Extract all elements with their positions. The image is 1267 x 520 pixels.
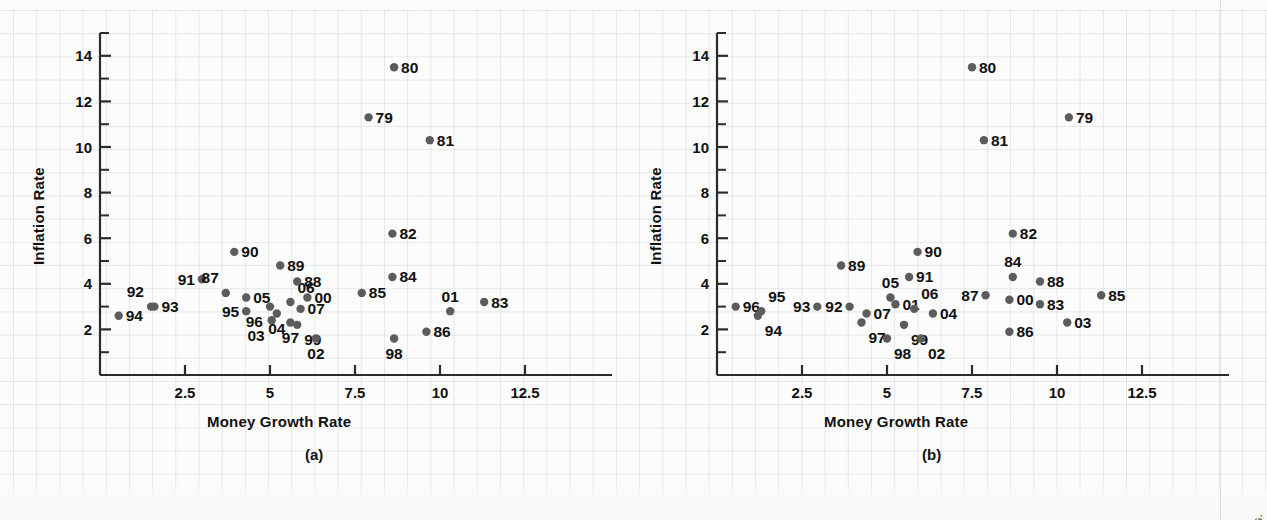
y-tick-label: 8 [701,184,709,201]
x-tick-label: 7.5 [962,384,983,400]
data-point-label: 03 [1074,314,1092,331]
data-point [1009,273,1017,281]
data-point [837,261,845,269]
panel-caption-b: (b) [922,446,941,463]
data-point-label: 03 [247,327,265,344]
data-point [426,136,434,144]
data-point [1005,296,1013,304]
x-tick-label: 12.5 [1127,384,1156,400]
data-point [364,113,372,121]
data-point-label: 87 [961,287,978,304]
data-point [913,248,921,256]
scatter-plot-b: 24681012142.557.51012.596949593928997070… [617,0,1247,400]
data-point [757,307,765,315]
data-point [981,291,989,299]
data-point [883,334,891,342]
data-point-label: 80 [979,59,996,76]
data-point [242,293,250,301]
data-point-label: 86 [1016,323,1034,340]
data-point [891,300,899,308]
data-point [929,309,937,317]
data-point-label: 91 [916,268,934,285]
data-point [968,63,976,71]
y-axis-title-a: Inflation Rate [30,167,47,265]
data-point-label: 93 [161,298,179,315]
data-point-label: 85 [1108,287,1126,304]
x-axis-title-b: Money Growth Rate [824,413,968,430]
data-point-label: 06 [921,285,939,302]
data-point-label: 97 [282,329,299,346]
data-point-label: 00 [314,289,331,306]
data-point-label: 95 [768,288,786,305]
data-point-label: 02 [307,345,324,362]
data-point-label: 92 [127,283,144,300]
data-point-label: 98 [894,345,912,362]
y-tick-label: 4 [84,275,93,292]
data-point [1063,318,1071,326]
data-point-label: 81 [991,132,1009,149]
data-point [917,334,925,342]
data-point [286,298,294,306]
data-point [813,302,821,310]
data-point [732,302,740,310]
data-point [358,289,366,297]
data-point [115,312,123,320]
y-tick-label: 8 [84,184,92,201]
data-point-label: 82 [1020,225,1037,242]
data-point [422,327,430,335]
data-point-label: 80 [401,59,418,76]
data-point-label: 02 [928,345,945,362]
data-point [303,293,311,301]
data-point-label: 82 [399,225,416,242]
data-point-label: 79 [376,109,394,126]
data-point [150,302,158,310]
x-tick-label: 7.5 [345,384,366,400]
data-point [900,321,908,329]
data-point [293,321,301,329]
y-tick-label: 2 [84,321,92,338]
data-point-label: 88 [304,273,322,290]
data-point [1097,291,1105,299]
y-tick-label: 12 [692,93,709,110]
x-axis-title-a: Money Growth Rate [207,413,351,430]
data-point [388,229,396,237]
data-point-label: 95 [222,303,240,320]
data-point-label: 94 [765,322,783,339]
data-point-label: 83 [1047,296,1065,313]
data-point [293,277,301,285]
data-point [446,307,454,315]
data-point [390,334,398,342]
data-point-label: 88 [1047,273,1065,290]
y-tick-label: 10 [692,139,709,156]
paper-bottom-band [0,482,1267,520]
data-point [273,309,281,317]
x-tick-label: 10 [1049,384,1066,400]
panel-caption-a: (a) [305,446,323,463]
data-point [910,305,918,313]
data-point-label: 84 [399,268,417,285]
data-point-label: 01 [442,288,460,305]
x-tick-label: 5 [266,384,274,400]
y-tick-label: 14 [75,47,92,64]
y-tick-label: 10 [75,139,92,156]
data-point [480,298,488,306]
data-point [222,289,230,297]
data-point [845,302,853,310]
y-tick-label: 6 [701,230,709,247]
y-tick-label: 4 [701,275,710,292]
scatter-panel-b: 24681012142.557.51012.596949593928997070… [617,0,1247,480]
data-point [230,248,238,256]
x-tick-label: 5 [883,384,891,400]
scatter-plot-a: 24681012142.557.51012.594929391879095059… [0,0,630,400]
data-point-label: 85 [369,284,387,301]
data-point-label: 93 [793,298,811,315]
data-point-label: 90 [241,243,258,260]
x-tick-label: 2.5 [175,384,196,400]
data-point-label: 05 [882,274,900,291]
y-tick-label: 2 [701,321,709,338]
data-point [388,273,396,281]
x-tick-label: 2.5 [792,384,813,400]
data-point [862,309,870,317]
data-point-label: 91 [178,271,196,288]
y-axis-title-b: Inflation Rate [647,167,664,265]
